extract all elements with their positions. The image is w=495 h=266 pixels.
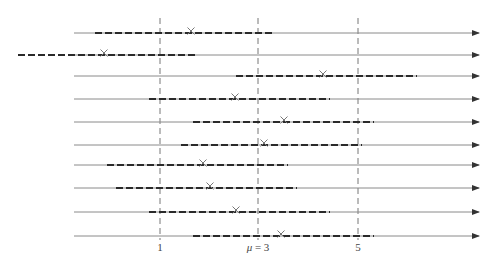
tick-label-mu: μ = 3 [247, 241, 270, 253]
interval-rows [18, 28, 479, 238]
mu-value: = 3 [252, 241, 269, 253]
interval-row [74, 94, 479, 101]
interval-row [74, 117, 479, 124]
tick-label-5: 5 [355, 241, 361, 253]
interval-row [74, 28, 479, 35]
confidence-interval-diagram [0, 0, 495, 266]
interval-row [74, 140, 479, 147]
interval-row [74, 231, 479, 238]
interval-row [18, 50, 479, 57]
interval-row [74, 71, 479, 78]
interval-row [74, 183, 479, 190]
reference-lines [160, 18, 358, 240]
interval-row [74, 160, 479, 167]
tick-label-1: 1 [157, 241, 163, 253]
interval-row [74, 207, 479, 214]
